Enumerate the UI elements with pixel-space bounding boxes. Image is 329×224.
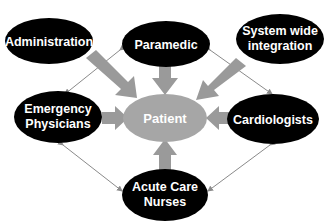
- emergency-physicians-label-line2: Physicians: [25, 117, 90, 131]
- system-integration-label-line2: integration: [248, 39, 313, 53]
- arrow-system: [196, 58, 246, 100]
- administration-label: Administration: [5, 35, 93, 49]
- acute-care-nurses-label-line2: Nurses: [144, 195, 186, 209]
- emergency-physicians-label-line1: Emergency: [24, 102, 91, 116]
- connector-emergency-nurses: [63, 145, 122, 191]
- acute-care-nurses-label-line1: Acute Care: [132, 180, 198, 194]
- patient-label: Patient: [143, 111, 187, 126]
- system-integration-label-line1: System wide: [242, 24, 318, 38]
- care-network-diagram: Patient Administration Paramedic System …: [0, 0, 329, 224]
- paramedic-label: Paramedic: [134, 38, 197, 52]
- cardiologists-label: Cardiologists: [233, 113, 313, 127]
- connector-cardiologists-nurses: [208, 145, 270, 191]
